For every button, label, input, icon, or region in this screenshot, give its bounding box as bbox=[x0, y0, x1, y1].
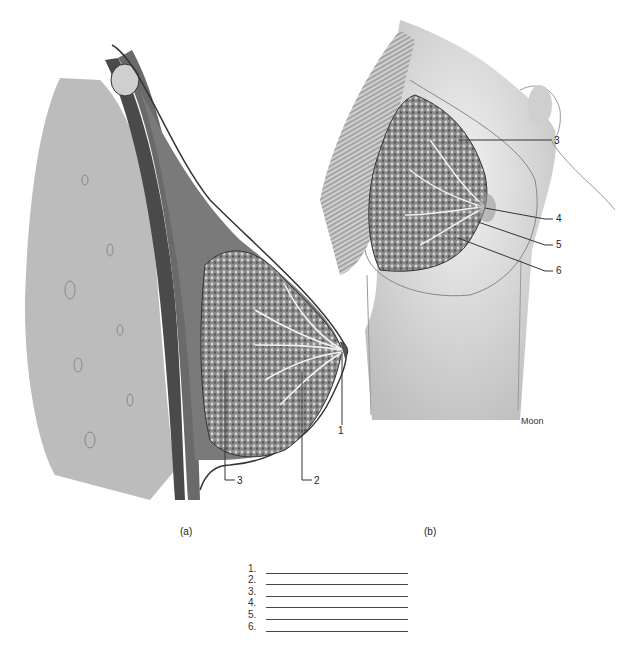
label-b-4: 4 bbox=[556, 214, 562, 224]
label-b-5: 5 bbox=[556, 240, 562, 250]
artist-signature: Moon bbox=[521, 416, 544, 426]
answer-number: 6. bbox=[248, 622, 264, 632]
answer-row: 4. bbox=[248, 597, 408, 609]
answer-key: 1. 2. 3. 4. 5. 6. bbox=[248, 562, 408, 632]
answer-blank[interactable] bbox=[266, 566, 408, 574]
answer-row: 1. bbox=[248, 562, 408, 574]
answer-number: 5. bbox=[248, 610, 264, 620]
answer-row: 5. bbox=[248, 608, 408, 620]
answer-row: 2. bbox=[248, 574, 408, 586]
answer-blank[interactable] bbox=[266, 612, 408, 620]
figure-a-section bbox=[25, 45, 348, 500]
anatomy-illustration bbox=[0, 0, 644, 650]
answer-number: 4. bbox=[248, 598, 264, 608]
answer-number: 2. bbox=[248, 575, 264, 585]
label-a-3: 3 bbox=[237, 476, 243, 486]
label-b-6: 6 bbox=[556, 266, 562, 276]
answer-blank[interactable] bbox=[266, 600, 408, 608]
label-b-3: 3 bbox=[554, 136, 560, 146]
answer-blank[interactable] bbox=[266, 577, 408, 585]
answer-blank[interactable] bbox=[266, 589, 408, 597]
answer-row: 6. bbox=[248, 620, 408, 632]
figure-b-view bbox=[320, 20, 615, 420]
label-a-2: 2 bbox=[314, 476, 320, 486]
answer-row: 3. bbox=[248, 585, 408, 597]
answer-blank[interactable] bbox=[266, 624, 408, 632]
answer-number: 1. bbox=[248, 564, 264, 574]
caption-a: (a) bbox=[180, 526, 192, 537]
caption-b: (b) bbox=[424, 526, 436, 537]
label-a-1: 1 bbox=[338, 426, 344, 436]
answer-number: 3. bbox=[248, 587, 264, 597]
